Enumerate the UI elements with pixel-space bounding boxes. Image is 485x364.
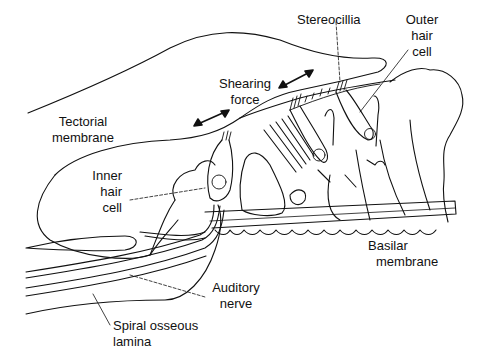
outer-hair-cell-1 [290,106,327,162]
tectorial-membrane-shape [28,33,386,175]
deiters-cells [328,120,430,220]
nerve-fiber-bundle [290,190,306,205]
inner-hair-cell-leader [130,188,205,200]
stereocilia-leader [336,22,340,82]
label-stereocilia: Stereocillia [297,12,361,28]
pillar-cells [264,116,314,172]
outer-hair-cell-2-nucleus [365,129,376,140]
label-auditory-nerve: Auditory nerve [210,280,262,312]
inner-hair-cell-nucleus [212,175,226,189]
limbus-outline [26,236,136,251]
label-spiral-osseous-lamina: Spiral osseous lamina [113,318,198,350]
organ-of-corti-diagram: Stereocillia Outer hair cell Shearing fo… [0,0,485,364]
upper-arrow [283,72,310,86]
label-outer-hair-cell: Outer hair cell [402,12,442,60]
spiral-osseous-lamina-outline [26,205,221,314]
label-shearing-force: Shearing force [215,76,275,108]
label-basilar-membrane: Basilar membrane [368,238,438,270]
tunnel-of-corti [240,153,285,216]
label-inner-hair-cell: Inner hair cell [88,168,122,216]
outer-hair-cell-2 [336,90,373,140]
label-tectorial-membrane: Tectorial membrane [45,114,121,146]
tympanic-cells [215,230,436,235]
phalangeal-processes [318,96,385,187]
spiral-osseous-lamina-leader [93,294,110,325]
lower-arrow [198,112,225,124]
inner-hair-cell-body [208,140,233,201]
